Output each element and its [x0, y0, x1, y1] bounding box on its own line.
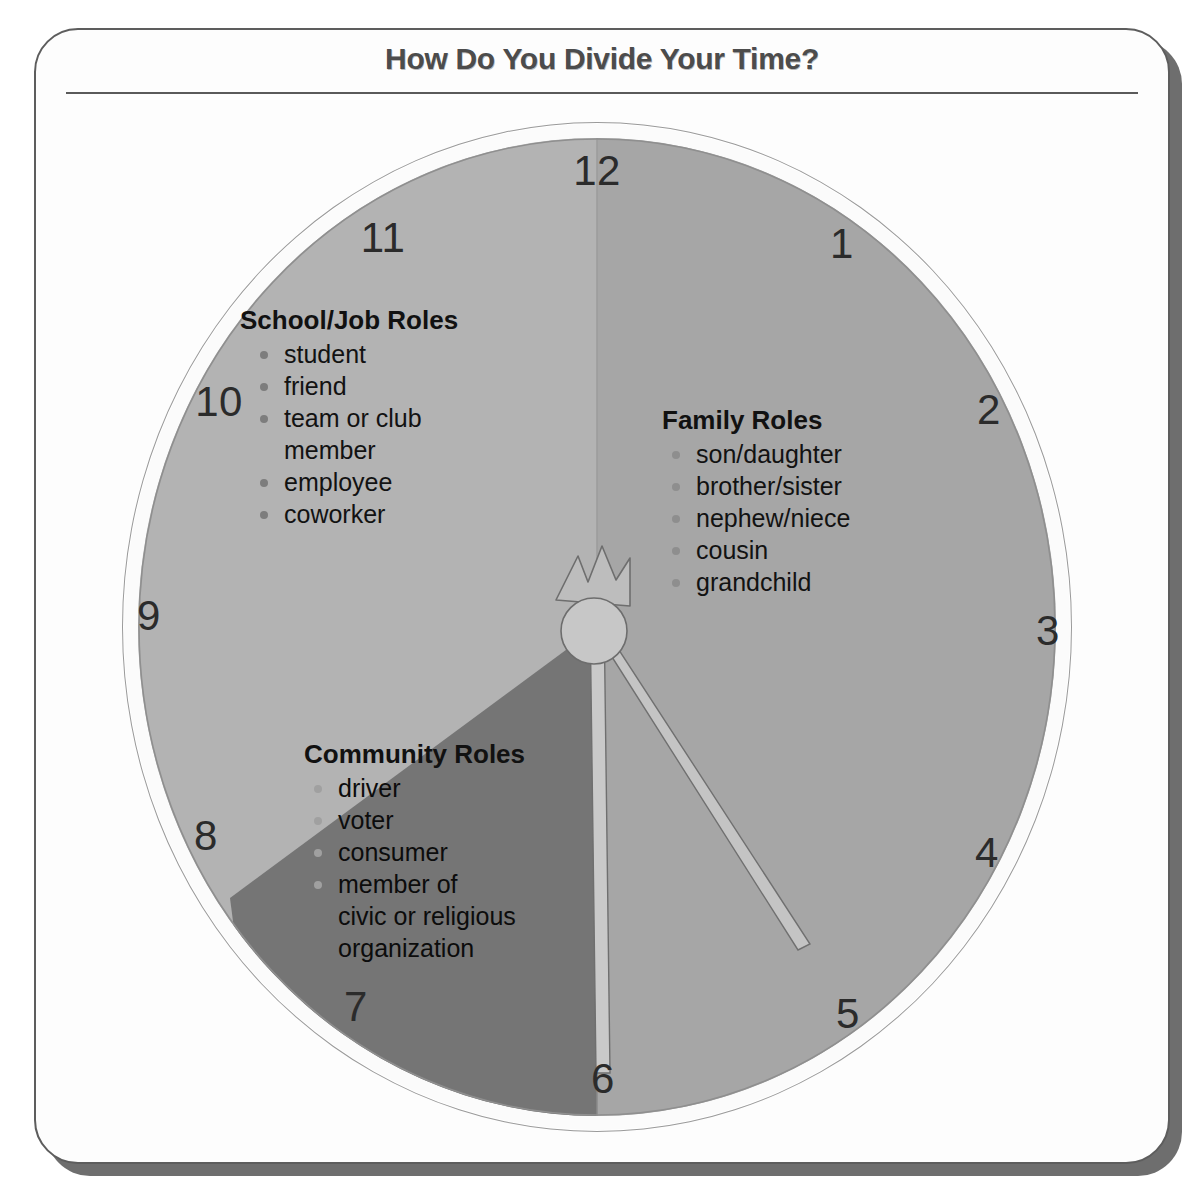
clock-numeral-1: 1 — [830, 223, 854, 265]
group-list-family: son/daughter brother/sister nephew/niece… — [662, 438, 850, 598]
list-item-label: cousin — [696, 536, 768, 564]
screenshot-root: How Do You Divide Your Time? — [0, 0, 1196, 1202]
clock-numeral-4: 4 — [975, 832, 999, 874]
bullet-icon — [260, 479, 268, 487]
poster-card: How Do You Divide Your Time? — [34, 28, 1170, 1164]
list-item: grandchild — [662, 566, 850, 598]
label-group-community: Community Roles driver voter consumer me… — [304, 740, 525, 964]
list-item: team or club — [250, 402, 458, 434]
clock-numeral-9: 9 — [137, 595, 161, 637]
clock-numeral-5: 5 — [836, 993, 860, 1035]
list-item: driver — [304, 772, 525, 804]
list-item: member of — [304, 868, 525, 900]
list-item: consumer — [304, 836, 525, 868]
group-title-community: Community Roles — [304, 740, 525, 770]
list-item-label: voter — [338, 806, 394, 834]
clock-numeral-12: 12 — [573, 150, 621, 192]
bullet-icon — [672, 515, 680, 523]
clock-numeral-2: 2 — [977, 389, 1001, 431]
bullet-icon — [260, 415, 268, 423]
bullet-icon — [672, 579, 680, 587]
clock-numeral-11: 11 — [361, 217, 406, 259]
list-item-label: consumer — [338, 838, 448, 866]
clock-face — [138, 138, 1056, 1116]
bullet-icon — [672, 483, 680, 491]
list-item-continuation: organization — [304, 932, 525, 964]
label-group-school-job: School/Job Roles student friend team or … — [250, 306, 458, 530]
group-title-family: Family Roles — [662, 406, 850, 436]
list-item-continuation: member — [250, 434, 458, 466]
list-item-label: driver — [338, 774, 401, 802]
clock-numeral-8: 8 — [194, 815, 218, 857]
list-item: coworker — [250, 498, 458, 530]
list-item: voter — [304, 804, 525, 836]
bullet-icon — [260, 383, 268, 391]
bullet-icon — [672, 547, 680, 555]
list-item-continuation: civic or religious — [304, 900, 525, 932]
bullet-icon — [314, 849, 322, 857]
sector-family — [597, 138, 1056, 1116]
title-divider — [66, 92, 1138, 94]
list-item-label: friend — [284, 372, 347, 400]
title-area: How Do You Divide Your Time? — [36, 30, 1168, 76]
list-item: nephew/niece — [662, 502, 850, 534]
clock-numeral-3: 3 — [1036, 610, 1060, 652]
group-list-school-job: student friend team or club member emplo… — [250, 338, 458, 530]
label-group-family: Family Roles son/daughter brother/sister… — [662, 406, 850, 598]
clock-numeral-6: 6 — [591, 1058, 615, 1100]
bullet-icon — [314, 785, 322, 793]
list-item: brother/sister — [662, 470, 850, 502]
clock-numeral-10: 10 — [195, 381, 243, 423]
list-item-label: student — [284, 340, 366, 368]
bullet-icon — [314, 817, 322, 825]
list-item-label: grandchild — [696, 568, 811, 596]
bullet-icon — [260, 511, 268, 519]
clock-center-hub — [561, 598, 627, 664]
list-item-label: brother/sister — [696, 472, 842, 500]
list-item-label: member of — [338, 870, 457, 898]
list-item: employee — [250, 466, 458, 498]
list-item: son/daughter — [662, 438, 850, 470]
list-item-label: organization — [338, 934, 474, 962]
bullet-icon — [672, 451, 680, 459]
list-item-label: coworker — [284, 500, 385, 528]
list-item-label: team or club — [284, 404, 422, 432]
clock-numeral-7: 7 — [344, 986, 368, 1028]
bullet-icon — [260, 351, 268, 359]
list-item: student — [250, 338, 458, 370]
list-item-label: nephew/niece — [696, 504, 850, 532]
list-item-label: member — [284, 436, 376, 464]
list-item-label: son/daughter — [696, 440, 842, 468]
group-list-community: driver voter consumer member of civic or… — [304, 772, 525, 964]
group-title-school-job: School/Job Roles — [240, 306, 458, 336]
clock-face-svg — [138, 138, 1056, 1116]
page-title: How Do You Divide Your Time? — [385, 42, 819, 76]
list-item-label: civic or religious — [338, 902, 516, 930]
list-item: friend — [250, 370, 458, 402]
bullet-icon — [314, 881, 322, 889]
list-item-label: employee — [284, 468, 392, 496]
list-item: cousin — [662, 534, 850, 566]
